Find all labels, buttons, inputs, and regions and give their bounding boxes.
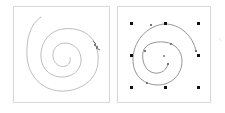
handle-bottom-left[interactable] [130,86,133,89]
handle-bottom-center[interactable] [164,86,167,89]
vector-spiral-path[interactable] [133,24,196,85]
handle-middle-right[interactable] [197,54,200,57]
stray-mark [219,38,221,41]
handle-top-right[interactable] [197,22,200,25]
handle-middle-left[interactable] [130,54,133,57]
pencil-scribble-icon [93,41,100,50]
freehand-spiral-stroke [27,17,98,91]
handle-top-left[interactable] [130,22,133,25]
handle-bottom-right[interactable] [197,86,200,89]
handle-top-center[interactable] [164,22,167,25]
drawing-canvas[interactable] [0,0,225,113]
path-anchor-points[interactable] [144,24,197,84]
center-point-icon [163,55,165,57]
